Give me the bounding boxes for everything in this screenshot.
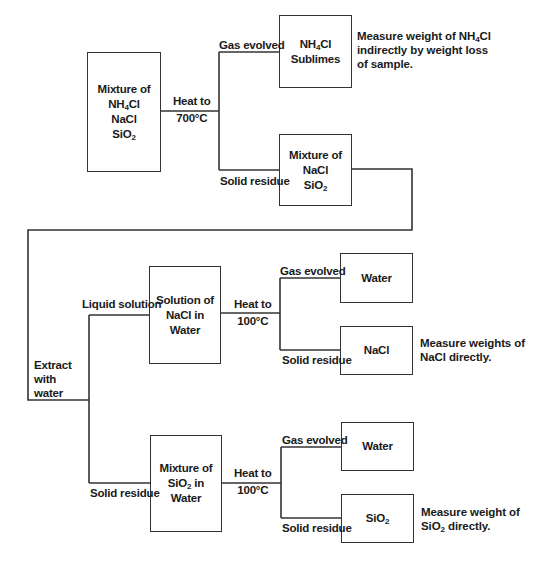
node-text: NH4Cl (108, 97, 140, 112)
node-text: Mixture of (160, 461, 213, 476)
node-text: SiO2 (112, 127, 135, 142)
node-text: Water (170, 323, 201, 338)
note-line: Measure weights of (420, 336, 525, 350)
node-nacl-solid: NaCl (340, 326, 413, 375)
label-liquid-solution: Liquid solution (82, 297, 161, 311)
node-text: Water (171, 491, 202, 506)
note-line: indirectly by weight loss (357, 43, 491, 57)
label-line: 700°C (173, 111, 211, 125)
label-line: with (34, 372, 72, 386)
node-text: SiO2 (304, 178, 327, 193)
label-line: Heat to (234, 466, 272, 480)
label-line: Extract (34, 358, 72, 372)
node-nh4cl-sublimes: NH4Cl Sublimes (279, 15, 352, 88)
node-text: Mixture of (98, 82, 151, 97)
node-water-1: Water (340, 253, 413, 303)
node-sio2-solid: SiO2 (341, 494, 414, 543)
node-nacl-solution: Solution of NaCl in Water (149, 266, 221, 364)
note-line: Measure weight of (421, 505, 520, 519)
label-solid-residue-4: Solid residue (282, 521, 352, 535)
node-text: NaCl (364, 343, 389, 358)
node-text: Water (361, 271, 392, 286)
label-solid-residue-1: Solid residue (220, 174, 290, 188)
label-line: Heat to (234, 297, 272, 311)
label-gas-evolved-2: Gas evolved (280, 264, 346, 278)
label-extract-with-water: Extract with water (34, 358, 72, 400)
node-start-mixture: Mixture of NH4Cl NaCl SiO2 (87, 52, 161, 172)
note-nacl: Measure weights of NaCl directly. (420, 336, 525, 364)
label-line: Heat to (173, 94, 211, 108)
node-water-2: Water (341, 422, 414, 471)
label-gas-evolved-3: Gas evolved (282, 433, 348, 447)
node-text: Sublimes (291, 52, 341, 67)
label-gas-evolved-1: Gas evolved (219, 38, 285, 52)
node-text: Water (362, 439, 393, 454)
note-line: NaCl directly. (420, 350, 525, 364)
label-solid-residue-2: Solid residue (90, 486, 160, 500)
node-sio2-mixture: Mixture of SiO2 in Water (150, 435, 222, 532)
node-text: SiO2 in (168, 476, 204, 491)
label-heat-100-a: Heat to 100°C (234, 297, 272, 328)
note-line: SiO2 directly. (421, 519, 520, 533)
note-nh4cl: Measure weight of NH4Cl indirectly by we… (357, 29, 491, 71)
label-line: 100°C (234, 314, 272, 328)
node-text: NH4Cl (300, 37, 332, 52)
label-solid-residue-3: Solid residue (282, 353, 352, 367)
node-text: Solution of (156, 293, 214, 308)
label-heat-100-b: Heat to 100°C (234, 466, 272, 497)
label-line: 100°C (234, 483, 272, 497)
label-heat-700: Heat to 700°C (173, 94, 211, 125)
note-line: Measure weight of NH4Cl (357, 29, 491, 43)
node-text: Mixture of (289, 148, 342, 163)
node-nacl-sio2-mixture: Mixture of NaCl SiO2 (279, 134, 352, 206)
node-text: NaCl in (166, 308, 204, 323)
node-text: SiO2 (366, 511, 389, 526)
node-text: NaCl (111, 112, 136, 127)
note-sio2: Measure weight of SiO2 directly. (421, 505, 520, 533)
node-text: NaCl (303, 163, 328, 178)
note-line: of sample. (357, 57, 491, 71)
label-line: water (34, 386, 72, 400)
